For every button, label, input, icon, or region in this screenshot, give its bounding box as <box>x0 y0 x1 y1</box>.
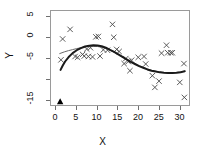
y-tick-label--15: -15 <box>25 85 35 111</box>
data-point-x-marker <box>164 43 169 48</box>
origin-triangle-marker <box>57 98 63 104</box>
x-tick-0 <box>55 106 56 110</box>
data-point-x-marker <box>111 35 116 40</box>
data-point-x-marker <box>177 80 182 85</box>
scatter-plot-figure: X Y 05101520253050-5-15 <box>0 0 205 165</box>
plot-area <box>50 10 190 106</box>
data-point-x-marker <box>182 95 187 100</box>
data-point-x-marker <box>165 50 170 55</box>
data-point-x-marker <box>136 55 141 60</box>
x-tick-label-30: 30 <box>168 112 192 122</box>
x-tick-5 <box>76 106 77 110</box>
y-tick--5 <box>46 58 50 59</box>
data-point-x-marker <box>127 68 132 73</box>
y-tick--10 <box>46 79 50 80</box>
data-point-x-marker <box>152 85 157 90</box>
data-point-x-marker <box>141 54 146 59</box>
x-tick-10 <box>97 106 98 110</box>
x-tick-20 <box>138 106 139 110</box>
y-tick-label--5: -5 <box>25 43 35 69</box>
data-point-x-marker <box>110 22 115 27</box>
x-axis-title: X <box>0 136 205 147</box>
data-point-x-marker <box>150 73 155 78</box>
x-tick-30 <box>180 106 181 110</box>
plot-canvas <box>51 11 191 107</box>
data-point-x-marker <box>159 50 164 55</box>
data-point-x-marker <box>90 54 95 59</box>
data-point-x-marker <box>67 27 72 32</box>
x-tick-25 <box>159 106 160 110</box>
data-point-x-marker <box>156 78 161 83</box>
scatter-points <box>58 22 187 100</box>
data-point-x-marker <box>181 61 186 66</box>
data-point-x-marker <box>143 61 148 66</box>
y-axis-title: Y <box>4 43 15 69</box>
y-tick--15 <box>46 100 50 101</box>
data-point-x-marker <box>97 53 102 58</box>
x-tick-15 <box>117 106 118 110</box>
data-point-x-marker <box>60 36 65 41</box>
y-tick-5 <box>46 16 50 17</box>
data-point-x-marker <box>58 57 63 62</box>
y-tick-0 <box>46 37 50 38</box>
